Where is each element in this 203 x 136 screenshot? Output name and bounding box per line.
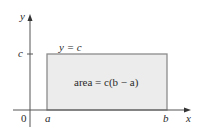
y-axis-label: y: [19, 10, 25, 22]
area-label: area = c(b − a): [74, 76, 139, 89]
origin-label: 0: [21, 112, 27, 124]
x-axis-label: x: [185, 112, 191, 124]
area-diagram: y c y = c area = c(b − a) 0 a b x: [0, 0, 203, 136]
y-axis-arrow-icon: [28, 14, 33, 21]
x-tick-label-a: a: [45, 112, 51, 124]
y-tick-label-c: c: [18, 47, 23, 59]
x-tick-label-b: b: [163, 112, 169, 124]
line-label: y = c: [58, 41, 82, 53]
